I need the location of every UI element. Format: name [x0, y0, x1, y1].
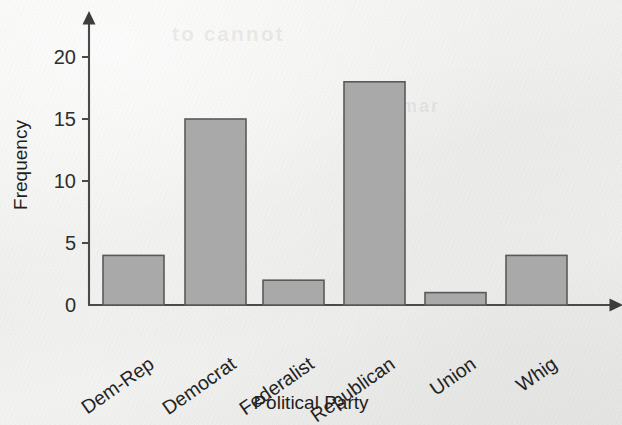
x-tick-label-republican: Republican	[306, 352, 399, 425]
y-axis-tick-label: 10	[54, 170, 76, 192]
y-axis-title: Frequency	[10, 120, 31, 210]
x-tick-label-whig: Whig	[512, 352, 561, 396]
x-tick-label-union: Union	[425, 352, 479, 399]
y-axis-tick-label: 20	[54, 46, 76, 68]
bar-democrat	[185, 119, 246, 305]
bar-federalist	[263, 280, 324, 305]
x-tick-label-dem-rep: Dem-Rep	[77, 352, 158, 418]
y-axis-tick-label: 0	[65, 294, 76, 316]
y-axis-tick-label: 5	[65, 232, 76, 254]
y-axis-tick-label: 15	[54, 108, 76, 130]
y-axis-ticks: 05101520	[54, 46, 89, 316]
bar-dem-rep	[103, 255, 164, 305]
x-axis-title: Political Party	[253, 392, 369, 413]
x-axis-tick-labels: Dem-RepDemocratFederalistRepublicanUnion…	[77, 352, 561, 425]
bar-series	[103, 82, 567, 305]
bar-chart: 05101520 Dem-RepDemocratFederalistRepubl…	[0, 0, 622, 425]
bar-union	[425, 293, 486, 305]
bar-whig	[506, 255, 567, 305]
bar-republican	[344, 82, 405, 305]
x-tick-label-democrat: Democrat	[158, 352, 240, 419]
